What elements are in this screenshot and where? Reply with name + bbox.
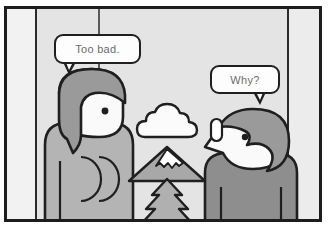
speech-bubble-left: Too bad. [54,34,141,64]
comic-scene: Too bad. Why? [0,0,330,232]
cloud [135,101,199,143]
speech-bubble-right: Why? [210,65,280,94]
right-person-brow [211,119,222,141]
cloud-shape [137,104,197,137]
right-person-eye [242,134,248,140]
tree [134,177,200,222]
tree-shape [142,179,192,222]
left-person-eye [102,108,109,115]
tree-graphic [134,177,200,222]
cloud-graphic [135,101,199,143]
comic-frame: Too bad. Why? [4,6,322,222]
